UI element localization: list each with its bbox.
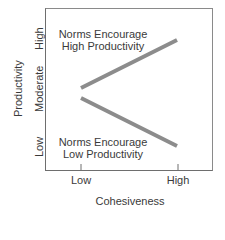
y-axis-label: Productivity xyxy=(12,60,24,117)
y-tick-moderate: Moderate xyxy=(33,66,45,112)
annotation-low-productivity: Norms Encourage Low Productivity xyxy=(59,136,148,160)
annotation-low-line2: Low Productivity xyxy=(59,148,148,160)
x-tick-label-high: High xyxy=(167,174,190,186)
x-axis-label: Cohesiveness xyxy=(95,195,164,207)
annotation-high-line2: High Productivity xyxy=(59,40,148,52)
y-tick-low: Low xyxy=(33,137,45,157)
annotation-high-line1: Norms Encourage xyxy=(59,28,148,40)
annotation-low-line1: Norms Encourage xyxy=(59,136,148,148)
annotation-high-productivity: Norms Encourage High Productivity xyxy=(59,28,148,52)
x-tick-label-low: Low xyxy=(71,174,91,186)
y-tick-high: High xyxy=(33,27,45,50)
